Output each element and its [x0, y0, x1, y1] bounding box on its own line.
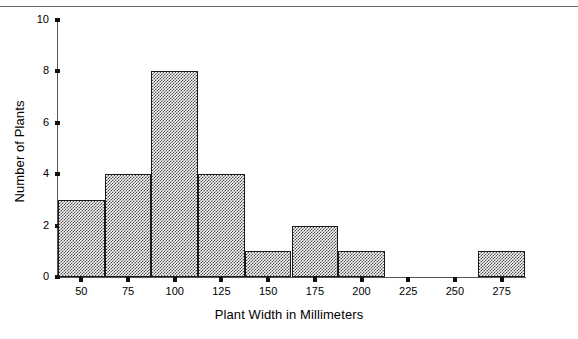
histogram-bar	[338, 251, 385, 277]
plot-area	[58, 20, 525, 277]
x-axis-tick	[219, 277, 223, 282]
x-axis-tick-label: 275	[482, 285, 522, 297]
histogram-bar	[478, 251, 525, 277]
x-axis-tick-label: 50	[61, 285, 101, 297]
x-axis-tick-label: 175	[295, 285, 335, 297]
x-axis-tick	[173, 277, 177, 282]
y-axis-tick-label: 10	[19, 13, 49, 25]
x-axis-tick-label: 100	[155, 285, 195, 297]
x-axis-tick-label: 225	[388, 285, 428, 297]
histogram-figure: Number of Plants Plant Width in Millimet…	[0, 0, 578, 339]
x-axis-tick	[126, 277, 130, 282]
y-axis-tick-label: 8	[19, 64, 49, 76]
y-axis-tick-label: 6	[19, 116, 49, 128]
x-axis-tick	[360, 277, 364, 282]
x-axis-tick-label: 75	[108, 285, 148, 297]
x-axis-title: Plant Width in Millimeters	[0, 307, 578, 322]
y-axis-tick-label: 4	[19, 167, 49, 179]
x-axis-tick	[313, 277, 317, 282]
histogram-bar	[292, 226, 339, 277]
histogram-bar	[198, 174, 245, 277]
y-axis-title: Number of Plants	[12, 72, 27, 232]
x-axis-tick-label: 125	[201, 285, 241, 297]
x-axis-tick-label: 250	[435, 285, 475, 297]
x-axis-tick	[266, 277, 270, 282]
x-axis-tick	[406, 277, 410, 282]
x-axis-tick	[500, 277, 504, 282]
y-axis-tick-label: 2	[19, 219, 49, 231]
top-horizontal-rule	[0, 6, 578, 7]
histogram-bar	[151, 71, 198, 277]
x-axis-tick	[453, 277, 457, 282]
x-axis-tick-label: 200	[342, 285, 382, 297]
y-axis-tick-label: 0	[19, 270, 49, 282]
x-axis-tick-label: 150	[248, 285, 288, 297]
histogram-bar	[245, 251, 292, 277]
histogram-bar	[105, 174, 152, 277]
histogram-bar	[58, 200, 105, 277]
x-axis-tick	[79, 277, 83, 282]
